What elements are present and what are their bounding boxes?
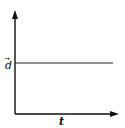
x-axis-label: t [59,116,64,127]
x-axis-arrow-icon [110,111,119,117]
y-axis-arrow-icon [12,10,18,19]
y-axis-label: d [5,60,12,71]
chart-canvas [0,0,125,128]
